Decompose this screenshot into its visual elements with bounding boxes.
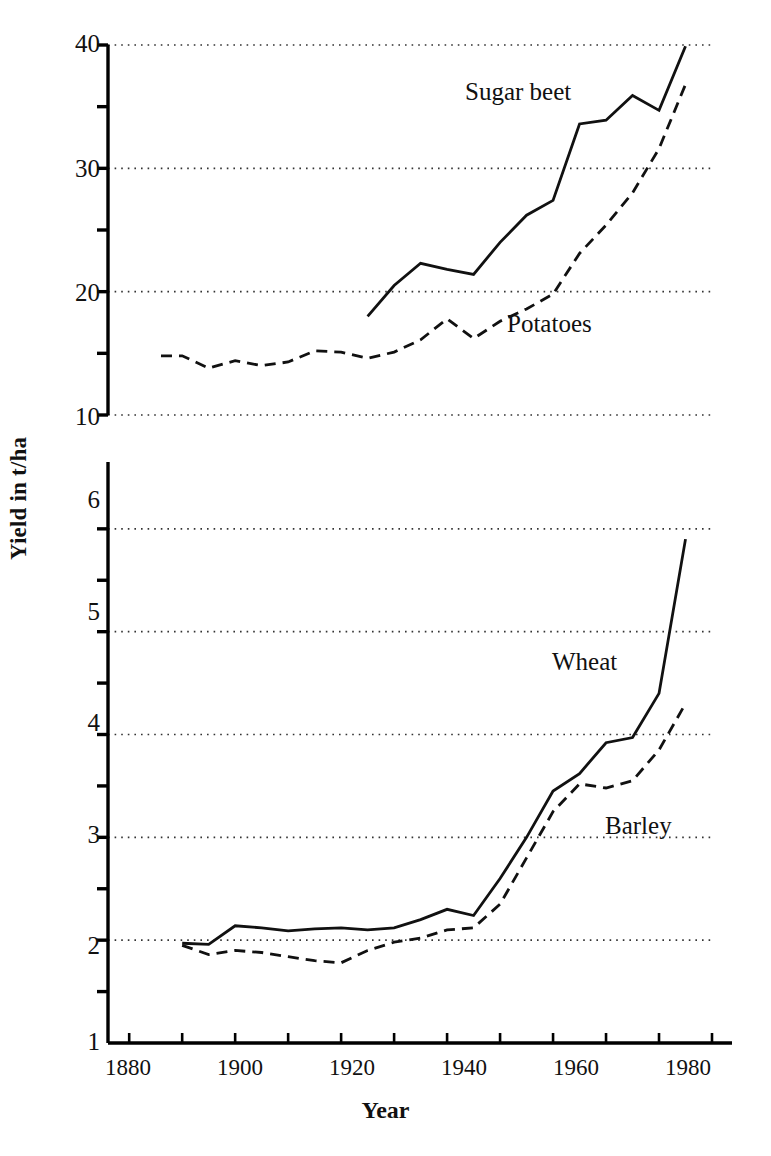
top-ytick-40: 40: [48, 30, 100, 58]
top-chart-panel: [0, 0, 771, 440]
y-axis-title: Yield in t/ha: [6, 260, 32, 560]
xtick-1980: 1980: [646, 1055, 730, 1081]
bottom-ytick-6: 6: [48, 486, 100, 514]
xtick-1960: 1960: [534, 1055, 618, 1081]
xtick-1900: 1900: [198, 1055, 282, 1081]
series-label-barley: Barley: [605, 812, 672, 840]
bottom-ytick-2: 2: [48, 932, 100, 960]
bottom-ytick-1: 1: [48, 1028, 100, 1056]
bottom-chart-panel: [0, 440, 771, 1060]
top-chart-svg: [0, 0, 771, 440]
xtick-1880: 1880: [86, 1055, 170, 1081]
xtick-1920: 1920: [310, 1055, 394, 1081]
top-ytick-10: 10: [48, 403, 100, 431]
series-label-potatoes: Potatoes: [507, 310, 592, 338]
bottom-chart-svg: [0, 440, 771, 1060]
bottom-ytick-4: 4: [48, 709, 100, 737]
series-line-wheat: [182, 539, 685, 944]
figure-root: 40 30 20 10 Sugar beet Potatoes 6 5 4 3 …: [0, 0, 771, 1156]
x-axis-title: Year: [0, 1097, 771, 1124]
series-line-potatoes: [161, 84, 686, 368]
bottom-ytick-3: 3: [48, 821, 100, 849]
series-label-wheat: Wheat: [552, 648, 617, 676]
top-ytick-20: 20: [48, 279, 100, 307]
series-label-sugar-beet: Sugar beet: [465, 78, 571, 106]
top-ytick-30: 30: [48, 155, 100, 183]
xtick-1940: 1940: [422, 1055, 506, 1081]
bottom-ytick-5: 5: [48, 598, 100, 626]
